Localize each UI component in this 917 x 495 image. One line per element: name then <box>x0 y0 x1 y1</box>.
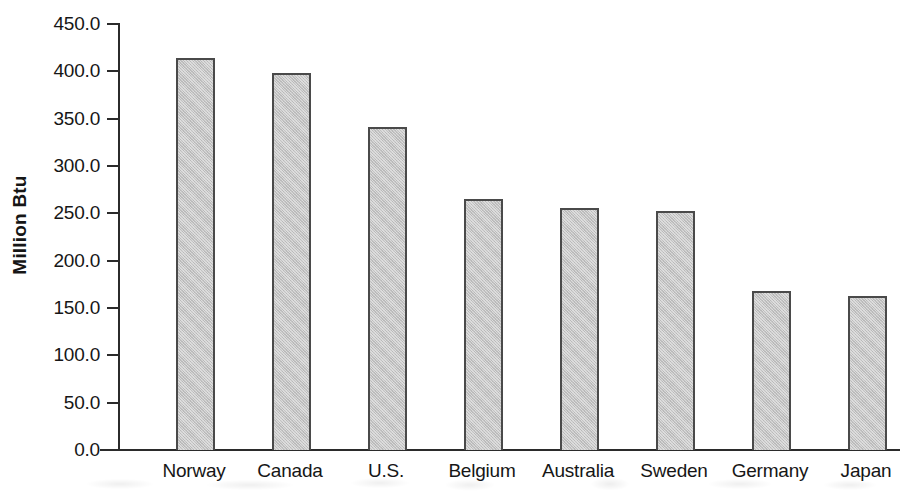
bar <box>560 208 599 450</box>
bar-group <box>146 24 242 450</box>
bar <box>752 291 791 450</box>
bar-group <box>338 24 434 450</box>
y-axis-tick-mark <box>107 23 118 25</box>
bar <box>464 199 503 450</box>
y-axis-tick-label: 400.0 <box>53 58 100 84</box>
y-axis-tick-mark <box>107 260 118 262</box>
y-axis-tick-mark <box>107 165 118 167</box>
y-axis-tick-mark <box>107 118 118 120</box>
bar <box>368 127 407 450</box>
bar-group <box>722 24 818 450</box>
bar <box>272 73 311 450</box>
y-axis-tick-mark <box>107 307 118 309</box>
y-axis-tick-mark <box>107 449 118 451</box>
bar-group <box>530 24 626 450</box>
bar <box>848 296 887 450</box>
bar-group <box>242 24 338 450</box>
y-axis-tick-label: 450.0 <box>53 11 100 37</box>
y-axis-tick-label: 300.0 <box>53 153 100 179</box>
y-axis-tick-label: 0.0 <box>74 437 100 463</box>
y-axis-tick-mark <box>107 402 118 404</box>
bar-group <box>626 24 722 450</box>
y-axis-tick-label: 350.0 <box>53 106 100 132</box>
y-axis-tick-mark <box>107 212 118 214</box>
bar <box>176 58 215 450</box>
page-bleedthrough-artifact <box>0 474 917 495</box>
y-axis-title: Million Btu <box>0 0 40 450</box>
y-axis-tick-label: 100.0 <box>53 342 100 368</box>
bar-group <box>434 24 530 450</box>
y-axis-tick-label: 50.0 <box>64 390 100 416</box>
y-axis-tick-label: 200.0 <box>53 248 100 274</box>
y-axis-tick-label: 250.0 <box>53 200 100 226</box>
bar <box>656 211 695 451</box>
y-axis-tick-label: 150.0 <box>53 295 100 321</box>
plot-area <box>118 24 900 450</box>
bar-group <box>818 24 914 450</box>
y-axis-tick-mark <box>107 70 118 72</box>
y-axis-title-label: Million Btu <box>9 175 31 274</box>
y-axis-tick-mark <box>107 354 118 356</box>
bar-chart: Million Btu 450.0400.0350.0300.0250.0200… <box>0 0 917 495</box>
